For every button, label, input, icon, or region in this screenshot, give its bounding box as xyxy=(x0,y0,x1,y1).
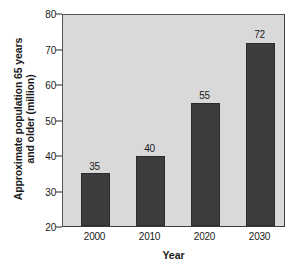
bar-2020 xyxy=(191,103,220,226)
x-tick-label-2010: 2010 xyxy=(139,231,160,242)
bar-value-2030: 72 xyxy=(254,29,265,40)
y-tick-label-20: 20 xyxy=(34,222,56,233)
bar-value-2000: 35 xyxy=(89,161,100,172)
x-axis-title: Year xyxy=(62,249,285,261)
y-tick-label-40: 40 xyxy=(34,151,56,162)
bar-value-2010: 40 xyxy=(144,143,155,154)
bars-layer xyxy=(63,15,284,226)
bar-value-2020: 55 xyxy=(199,90,210,101)
plot-area xyxy=(62,14,285,227)
y-tick-label-60: 60 xyxy=(34,80,56,91)
y-tick-label-70: 70 xyxy=(34,44,56,55)
bar-2030 xyxy=(246,43,275,226)
x-tick-label-2000: 2000 xyxy=(84,231,105,242)
bar-2010 xyxy=(136,156,165,226)
y-tick-label-50: 50 xyxy=(34,115,56,126)
bar-chart-figure: Approximate population 65 years and olde… xyxy=(0,0,299,273)
y-tick-label-30: 30 xyxy=(34,186,56,197)
y-tick-label-80: 80 xyxy=(34,9,56,20)
x-tick-label-2020: 2020 xyxy=(194,231,215,242)
y-axis-title-line-1: Approximate population 65 years xyxy=(12,38,24,201)
x-tick-label-2030: 2030 xyxy=(249,231,270,242)
bar-2000 xyxy=(81,173,110,226)
